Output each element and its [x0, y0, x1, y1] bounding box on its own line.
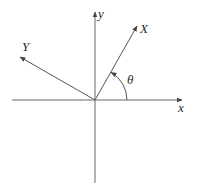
rotated-y-axis-line — [20, 57, 95, 100]
y-axis-label: y — [96, 6, 104, 21]
rotated-y-axis-label: Y — [22, 39, 31, 54]
rotated-x-axis-label: X — [139, 21, 149, 36]
rotated-x-axis-line — [95, 26, 137, 100]
diagram-svg: x y X Y θ — [0, 0, 224, 194]
theta-label: θ — [127, 72, 134, 87]
rotated-axes-diagram: x y X Y θ — [0, 0, 224, 194]
x-axis-label: x — [177, 100, 184, 115]
theta-angle-arc — [111, 72, 127, 100]
